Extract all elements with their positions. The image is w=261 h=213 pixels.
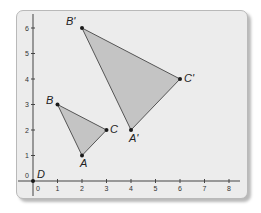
triangle-abc — [58, 105, 107, 156]
x-tick-label: 8 — [227, 185, 231, 192]
y-tick-labels: 0 1 2 3 4 5 6 — [25, 25, 29, 180]
x-tick-label: 1 — [56, 185, 60, 192]
point-c-prime — [178, 77, 182, 81]
x-tick-label: 5 — [154, 185, 158, 192]
triangle-a-prime-b-prime-c-prime — [82, 28, 180, 130]
label-b-prime: B' — [66, 15, 76, 27]
point-b — [56, 103, 60, 107]
point-b-prime — [80, 26, 84, 30]
y-tick-label: 2 — [25, 127, 29, 134]
point-c — [105, 128, 109, 132]
y-tick-label: 0 — [25, 172, 29, 179]
x-tick-label: 3 — [105, 185, 109, 192]
x-tick-label: 7 — [203, 185, 207, 192]
coordinate-plane: 0 1 2 3 4 5 6 7 8 0 1 2 3 4 5 6 — [0, 0, 261, 213]
x-tick-label: 0 — [36, 185, 40, 192]
y-tick-label: 4 — [25, 76, 29, 83]
label-a-prime: A' — [128, 132, 139, 144]
label-c-prime: C' — [184, 72, 195, 84]
y-tick-label: 5 — [25, 50, 29, 57]
y-tick-label: 6 — [25, 25, 29, 32]
label-c: C — [110, 123, 118, 135]
x-tick-label: 4 — [129, 185, 133, 192]
x-tick-label: 6 — [178, 185, 182, 192]
y-tick-label: 1 — [25, 152, 29, 159]
y-tick-label: 3 — [25, 101, 29, 108]
label-d: D — [37, 168, 45, 180]
label-a: A — [79, 157, 87, 169]
label-b: B — [46, 94, 53, 106]
x-tick-labels: 0 1 2 3 4 5 6 7 8 — [36, 185, 231, 192]
point-d — [31, 179, 35, 183]
x-tick-label: 2 — [80, 185, 84, 192]
